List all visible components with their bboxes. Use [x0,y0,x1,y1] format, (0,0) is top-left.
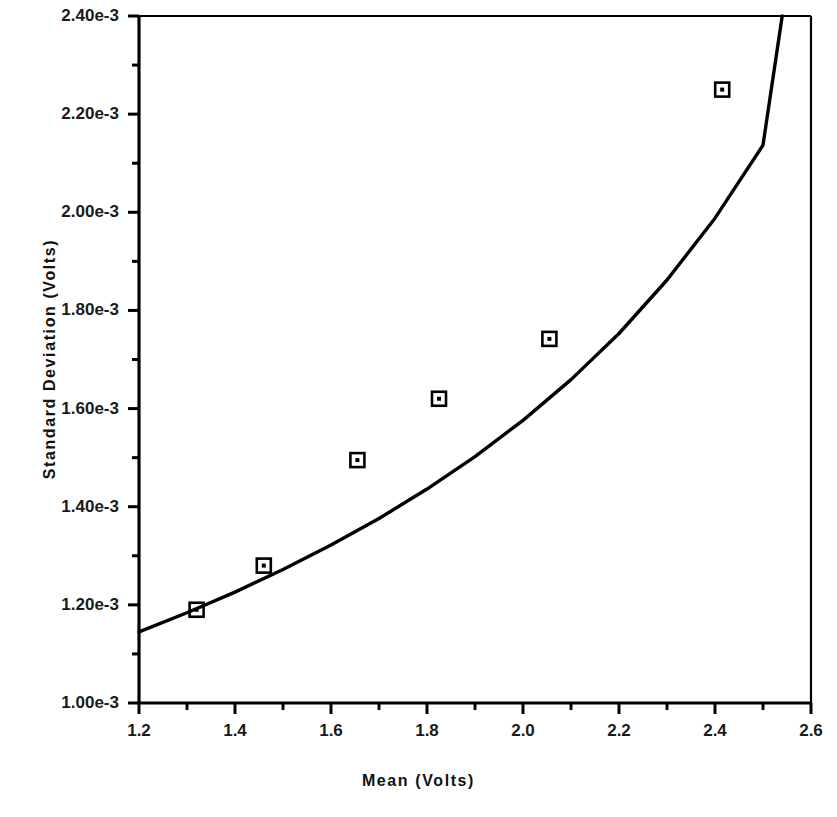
x-tick-label: 1.4 [200,721,270,741]
y-tick-label: 1.60e-3 [9,399,119,419]
y-tick-label: 1.20e-3 [9,595,119,615]
x-tick-label: 1.8 [392,721,462,741]
data-point-marker [257,559,271,573]
plot-canvas [0,0,837,817]
x-tick-label: 2.2 [584,721,654,741]
y-tick-label: 2.20e-3 [9,104,119,124]
data-point-marker [715,83,729,97]
axes-frame [139,16,811,703]
x-axis-title: Mean (Volts) [0,772,837,790]
y-tick-label: 1.80e-3 [9,300,119,320]
data-point-marker [350,453,364,467]
y-tick-label: 1.00e-3 [9,693,119,713]
axis-ticks [128,16,811,714]
x-tick-label: 2.0 [488,721,558,741]
data-point-marker [542,332,556,346]
fit-curve-line [139,16,782,632]
x-tick-label: 2.6 [776,721,837,741]
y-axis-title: Standard Deviation (Volts) [41,139,59,579]
data-point-markers [190,83,730,617]
chart-figure: 2.40e-32.20e-32.00e-31.80e-31.60e-31.40e… [0,0,837,817]
x-tick-label: 1.2 [104,721,174,741]
x-tick-label: 1.6 [296,721,366,741]
x-tick-label: 2.4 [680,721,750,741]
data-point-marker [432,392,446,406]
y-tick-label: 2.40e-3 [9,6,119,26]
series-line-fit-curve [139,16,782,632]
y-tick-label: 1.40e-3 [9,497,119,517]
y-tick-label: 2.00e-3 [9,202,119,222]
